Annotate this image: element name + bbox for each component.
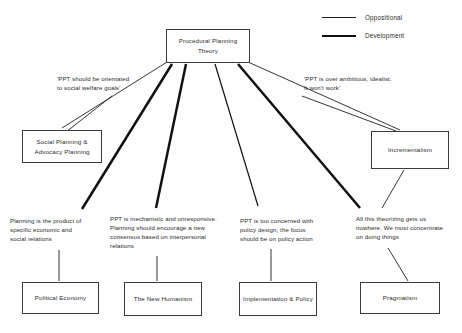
critique-new-humanism: PPT is mechanistic and unresponsive. Pla… <box>110 214 232 251</box>
diagram-canvas: Procedural Planning Theory 'PPT should b… <box>0 0 462 333</box>
edge-root-to-social-planning <box>62 62 167 128</box>
critique-political-economy: Planning is the product of specific econ… <box>10 216 105 243</box>
node-label: Incrementalism <box>388 145 432 155</box>
node-label: Social Planning & Advocacy Planning <box>25 137 99 156</box>
node-procedural-planning-theory[interactable]: Procedural Planning Theory <box>166 29 250 63</box>
edge-root-to-critique-implementation <box>215 64 258 206</box>
legend-label: Oppositional <box>365 14 402 21</box>
node-label: Implementation & Policy <box>243 294 313 304</box>
edge-root-to-incrementalism <box>248 62 400 130</box>
legend-item-oppositional: Oppositional <box>322 14 402 21</box>
edge-note-right-to-incrementalism <box>302 96 396 131</box>
node-label: Procedural Planning Theory <box>169 36 247 55</box>
legend-label: Development <box>365 32 404 39</box>
critique-implementation: PPT is too concerned with policy design,… <box>240 216 344 243</box>
node-incrementalism[interactable]: Incrementalism <box>371 131 449 169</box>
legend-line-thick-icon <box>322 35 356 37</box>
node-the-new-humanism[interactable]: The New Humanism <box>124 282 202 316</box>
node-political-economy[interactable]: Political Economy <box>22 282 99 314</box>
critique-pragmatism: All this theorizing gets us nowhere. We … <box>356 214 462 241</box>
node-pragmatism[interactable]: Pragmatism <box>360 282 440 314</box>
node-label: The New Humanism <box>134 294 192 304</box>
node-label: Political Economy <box>35 293 86 303</box>
node-implementation-policy[interactable]: Implementation & Policy <box>239 282 317 316</box>
node-label: Pragmatism <box>383 293 418 303</box>
edge-incrementalism-to-critique-pragmatism <box>382 170 404 208</box>
edge-social-planning-to-note-left <box>66 96 112 132</box>
legend: Oppositional Development <box>322 14 452 46</box>
legend-item-development: Development <box>322 32 404 39</box>
note-right: 'PPT is over ambitious, idealist. It won… <box>304 74 434 92</box>
edge-critique-to-pragmatism <box>388 248 408 281</box>
note-left: 'PPT should be orientated to social welf… <box>57 74 177 92</box>
legend-line-thin-icon <box>322 17 356 18</box>
node-social-planning-advocacy-planning[interactable]: Social Planning & Advocacy Planning <box>22 130 102 163</box>
